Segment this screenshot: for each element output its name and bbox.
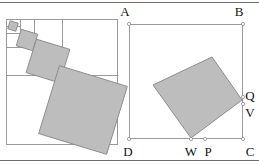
point-marker-q [241,95,244,98]
vertex-label-c: C [246,144,255,159]
point-marker-v [241,102,244,105]
point-marker-p [203,137,206,140]
rotated-square-1 [8,21,18,31]
point-marker-a [127,22,130,25]
vertex-label-w: W [185,144,198,159]
geometry-figure: ABCDQVWP [0,0,259,165]
point-marker-c [241,137,244,140]
vertex-label-q: Q [245,88,255,103]
vertex-label-p: P [204,144,211,159]
point-marker-d [127,137,130,140]
point-marker-b [241,22,244,25]
figure-canvas: ABCDQVWP [0,0,259,165]
vertex-label-b: B [235,4,244,19]
vertex-label-a: A [120,4,130,19]
vertex-label-v: V [245,105,255,120]
point-marker-w [189,137,192,140]
vertex-label-d: D [123,144,132,159]
